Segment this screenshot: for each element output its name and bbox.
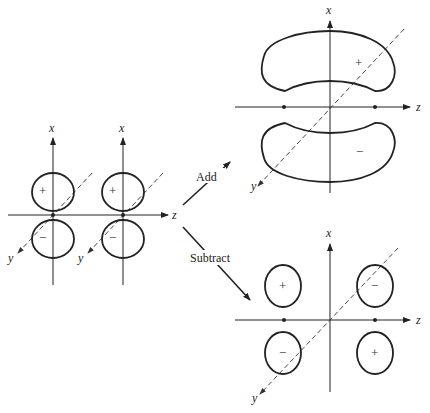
antibonding-sign-bottom-right: + — [371, 345, 378, 360]
antibonding-sign-top-right: − — [371, 278, 378, 293]
antibonding-orbital: x z y + − − + — [235, 226, 421, 405]
bonding-orbital: x z y + − — [235, 3, 421, 193]
nucleus-1 — [51, 213, 55, 217]
x-axis-label-2: x — [118, 121, 125, 135]
subtract-label: Subtract — [190, 251, 231, 265]
nucleus-bonding-b — [373, 105, 377, 109]
sign-plus-2: + — [109, 183, 116, 198]
sign-plus-1: + — [39, 183, 46, 198]
sign-minus-2: − — [109, 230, 116, 245]
antibonding-sign-top-left: + — [279, 278, 286, 293]
nucleus-antibonding-b — [373, 318, 377, 322]
bonding-minus-sign: − — [356, 144, 363, 159]
antibonding-sign-bottom-left: − — [279, 345, 286, 360]
nucleus-2 — [121, 213, 125, 217]
y-axis-label-2: y — [77, 251, 84, 265]
x-axis-label-1: x — [48, 121, 55, 135]
sign-minus-1: − — [39, 230, 46, 245]
y-axis-label-1: y — [7, 251, 14, 265]
x-axis-label-antibonding: x — [325, 226, 332, 240]
nucleus-antibonding-a — [282, 318, 286, 322]
z-axis-label-left: z — [171, 208, 177, 222]
subtract-arrow: Subtract — [183, 227, 250, 300]
p-orbital-2: x y + − — [77, 121, 163, 285]
add-arrow: Add — [183, 162, 230, 205]
y-axis-2 — [88, 173, 163, 253]
y-axis-label-bonding: y — [250, 179, 257, 193]
y-axis-1 — [18, 173, 92, 253]
bonding-lower-lobe — [262, 123, 395, 182]
z-axis-label-bonding: z — [415, 100, 421, 114]
orbital-combination-diagram: z x y + − x y + − Add — [0, 0, 430, 413]
nucleus-bonding-a — [282, 105, 286, 109]
x-axis-label-bonding: x — [325, 3, 332, 17]
y-axis-antibonding — [260, 248, 398, 394]
z-axis-label-antibonding: z — [415, 313, 421, 327]
add-label: Add — [196, 170, 217, 184]
y-axis-label-antibonding: y — [251, 391, 258, 405]
left-atomic-orbitals: z x y + − x y + − — [7, 121, 177, 285]
bonding-plus-sign: + — [355, 55, 362, 70]
